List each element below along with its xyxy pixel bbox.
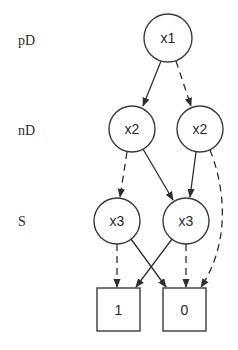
node-x2-right: x2 bbox=[177, 106, 223, 152]
node-label: x1 bbox=[161, 30, 176, 46]
node-x1: x1 bbox=[144, 14, 192, 62]
node-x3-right: x3 bbox=[163, 198, 209, 244]
level-label-S: S bbox=[18, 214, 26, 229]
terminal-label: 0 bbox=[181, 302, 189, 318]
terminal-label: 1 bbox=[115, 302, 123, 318]
edge-n_x3a-to-t0-solid bbox=[131, 239, 166, 287]
node-label: x3 bbox=[179, 213, 194, 229]
terminal-0: 0 bbox=[163, 288, 206, 331]
bdd-diagram: pD nD S x1 x2 x2 x3 x3 1 0 bbox=[0, 0, 238, 350]
node-x2-left: x2 bbox=[109, 106, 155, 152]
terminal-1: 1 bbox=[97, 288, 140, 331]
edge-n_x1-to-n_x2a-solid bbox=[143, 61, 161, 106]
edge-n_x3b-to-t1-solid bbox=[136, 239, 172, 287]
edge-n_x2a-to-n_x3b-solid bbox=[143, 149, 173, 200]
level-label-pD: pD bbox=[18, 33, 35, 48]
node-label: x2 bbox=[193, 121, 208, 137]
edge-n_x2b-to-n_x3b-solid bbox=[190, 152, 196, 197]
edge-n_x1-to-n_x2b-dashed bbox=[176, 61, 191, 106]
node-x3-left: x3 bbox=[94, 198, 140, 244]
edges-group bbox=[117, 61, 222, 287]
node-label: x2 bbox=[125, 121, 140, 137]
level-label-nD: nD bbox=[18, 123, 35, 138]
edge-n_x2a-to-n_x3a-dashed bbox=[120, 152, 127, 197]
node-label: x3 bbox=[110, 213, 125, 229]
